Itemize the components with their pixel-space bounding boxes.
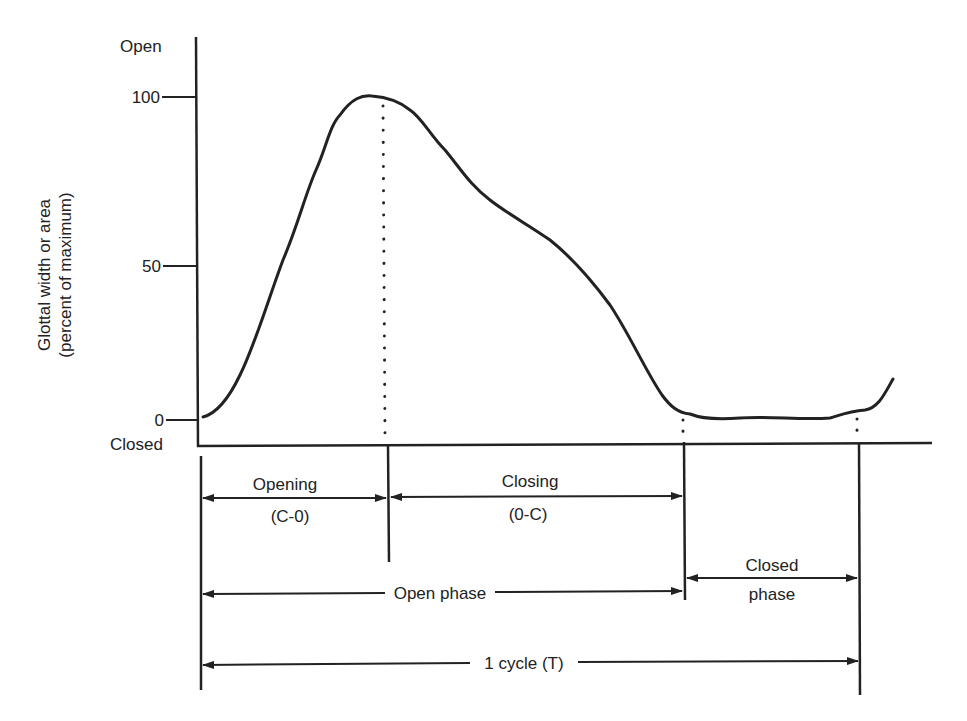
- closing-label: Closing: [502, 472, 559, 491]
- open-phase-arrow-left: [203, 593, 385, 594]
- svg-text:(percent of maximum): (percent of maximum): [56, 192, 75, 357]
- svg-text:Glottal width or area: Glottal width or area: [35, 198, 54, 351]
- closed-phase-label-2: phase: [749, 585, 795, 604]
- y-tick-label-100: 100: [132, 88, 160, 107]
- boundary-peak: [388, 446, 389, 562]
- glottal-waveform-curve: [203, 96, 893, 419]
- cycle-arrow-left: [203, 663, 470, 665]
- y-tick-label-0: 0: [155, 411, 164, 430]
- opening-code: (C-0): [271, 507, 310, 526]
- closing-arrow: [391, 496, 682, 497]
- boundary-closure: [684, 442, 685, 600]
- peak-dotted-line: [383, 106, 385, 440]
- y-top-label: Open: [120, 37, 162, 56]
- y-axis-title: Glottal width or area (percent of maximu…: [35, 192, 75, 357]
- y-axis: [196, 37, 198, 447]
- opening-label: Opening: [253, 475, 317, 494]
- closed-phase-label-1: Closed: [746, 556, 799, 575]
- y-bottom-label: Closed: [110, 435, 163, 454]
- glottal-cycle-chart: Open 100 50 0 Closed Glottal width or ar…: [0, 0, 967, 721]
- x-axis: [197, 443, 932, 446]
- boundary-cycle-end: [859, 443, 860, 695]
- cycle-label: 1 cycle (T): [484, 654, 563, 673]
- open-phase-arrow-right: [495, 591, 682, 592]
- open-phase-label: Open phase: [394, 584, 487, 603]
- y-tick-label-50: 50: [142, 257, 161, 276]
- cycle-arrow-right: [578, 661, 858, 662]
- closing-code: (0-C): [509, 505, 548, 524]
